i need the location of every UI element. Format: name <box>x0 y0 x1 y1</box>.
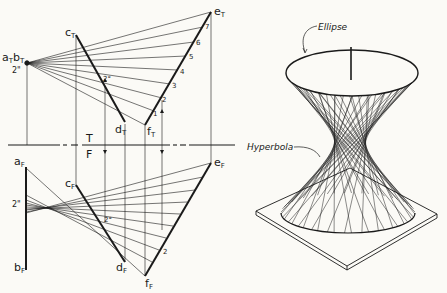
division-3: 3 <box>172 82 176 90</box>
angle-label-front: 2° <box>104 216 112 224</box>
edge-ef-top <box>145 12 211 125</box>
ellipse-leader <box>303 26 317 52</box>
front-view-ruling-lines <box>26 163 211 276</box>
division-1: 1 <box>153 110 157 118</box>
hyperbola-callout: Hyperbola <box>247 142 293 152</box>
fold-label-T: T <box>85 132 93 145</box>
label-e-top: eT <box>214 5 226 19</box>
edge-cd-front <box>76 185 125 262</box>
label-b-front: bF <box>14 261 25 275</box>
label-d-front: dF <box>116 261 127 275</box>
spacing-label-top: 2" <box>12 66 21 75</box>
label-a-front: aF <box>14 155 25 169</box>
label-ab-top: aTbT <box>2 51 25 65</box>
division-2: 2 <box>162 96 166 104</box>
left-panel-orthographic <box>8 12 235 276</box>
point-ab-top <box>25 61 29 65</box>
fold-label-F: F <box>86 148 92 161</box>
descriptive-geometry-figure: aTbT 2" cT dT eT fT 2° 1 2 3 4 5 6 7 T F… <box>0 0 447 293</box>
label-f-top: fT <box>147 125 156 139</box>
division-7: 7 <box>205 23 209 31</box>
ellipse-callout: Ellipse <box>318 22 348 32</box>
label-f-front: fF <box>145 277 153 291</box>
division-5: 5 <box>189 53 193 61</box>
hyperbola-leader <box>294 147 320 157</box>
edge-ef-front <box>145 163 211 276</box>
label-e-front: eF <box>214 156 225 170</box>
division-4: 4 <box>180 68 185 76</box>
top-ellipse <box>286 50 418 96</box>
angle-label-top: 2° <box>103 75 111 83</box>
spacing-label-front: 2" <box>12 200 21 209</box>
division-2-front: 2 <box>163 248 167 256</box>
label-c-front: cF <box>65 177 75 191</box>
division-6: 6 <box>196 39 201 47</box>
label-c-top: cT <box>65 26 76 40</box>
